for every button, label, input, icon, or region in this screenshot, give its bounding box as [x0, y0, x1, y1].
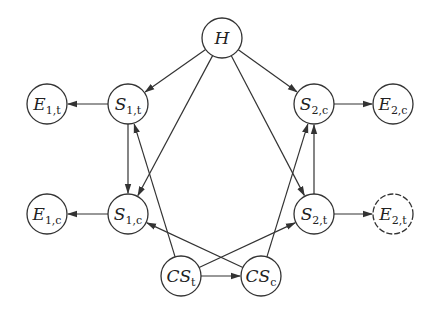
node-H: H	[202, 18, 242, 58]
node-E2t: E2,t	[373, 194, 413, 234]
node-S1t: S1,t	[108, 84, 148, 124]
nodes-layer: HE1,tS1,tS2,cE2,cE1,cS1,cS2,tE2,tCStCSc	[27, 18, 413, 296]
node-S2c: S2,c	[294, 84, 334, 124]
node-E1t: E1,t	[27, 84, 67, 124]
node-label: H	[214, 28, 231, 48]
causal-graph: HE1,tS1,tS2,cE2,cE1,cS1,cS2,tE2,tCStCSc	[0, 0, 433, 318]
node-S2t: S2,t	[294, 194, 334, 234]
node-S1c: S1,c	[108, 194, 148, 234]
node-CSc: CSc	[241, 256, 281, 296]
edges-layer	[68, 50, 372, 277]
node-CSt: CSt	[161, 256, 201, 296]
node-E1c: E1,c	[27, 194, 67, 234]
edge-H-to-S2t	[231, 56, 304, 196]
node-E2c: E2,c	[373, 84, 413, 124]
